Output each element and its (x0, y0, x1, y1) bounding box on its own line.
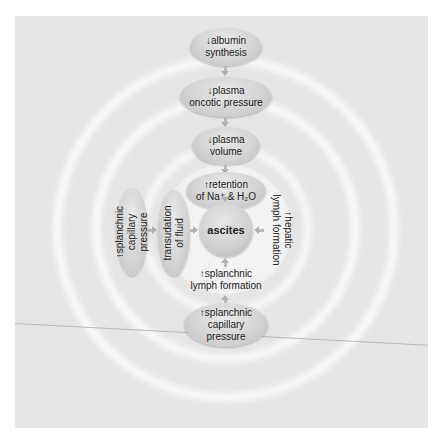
label-hepatic-lymph-formation: ↑hepatic lymph formation (262, 190, 302, 270)
node-splanchnic-capillary-pressure-left: ↑splanchnic capillary pressure (116, 188, 148, 276)
node-splanchnic-capillary-pressure-bottom: ↑splanchnic capillary pressure (184, 303, 268, 347)
label-splanchnic-lymph-formation: ↑splanchnic lymph formation (180, 266, 272, 294)
node-transudation-of-fluid: transudation of fluid (158, 190, 190, 276)
node-ascites: ascites (199, 203, 253, 257)
arrow-right-icon (193, 226, 198, 234)
node-plasma-volume: ↓plasma volume (192, 127, 260, 165)
arrow-down-icon (221, 71, 229, 76)
arrow-right-icon (152, 226, 157, 234)
node-albumin-synthesis: ↓albumin synthesis (190, 28, 262, 66)
arrow-down-icon (221, 197, 229, 202)
node-plasma-oncotic-pressure: ↓plasma oncotic pressure (180, 77, 272, 117)
arrow-left-icon (254, 226, 259, 234)
